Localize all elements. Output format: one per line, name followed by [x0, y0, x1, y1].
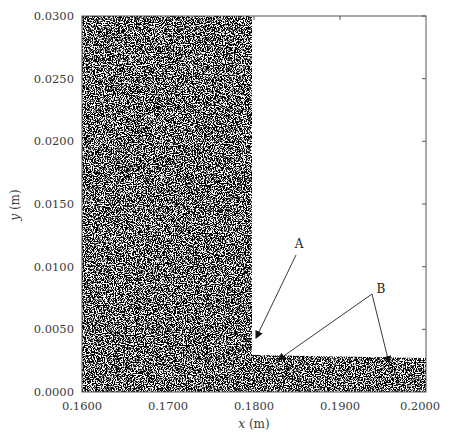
chart-figure: 0.0300 0.0250 0.0200 0.0150 0.0100 0.005… [0, 0, 453, 445]
arrow-icon [278, 294, 372, 360]
y-axis [422, 16, 426, 329]
arrow-icon [256, 255, 296, 338]
x-tick-label: 0.1900 [320, 399, 360, 413]
x-tick-label: 0.1800 [234, 399, 274, 413]
y-tick-label: 0.0000 [34, 385, 74, 399]
y-tick-label: 0.0300 [34, 9, 74, 23]
x-tick-label: 0.1700 [148, 399, 188, 413]
y-tick-label: 0.0150 [34, 197, 74, 211]
y-tick-labels: 0.0300 0.0250 0.0200 0.0150 0.0100 0.005… [34, 9, 74, 399]
x-tick-label: 0.1600 [62, 399, 102, 413]
x-tick-labels: 0.1600 0.1700 0.1800 0.1900 0.2000 [62, 399, 440, 413]
annotation-label-a: A [294, 237, 304, 251]
x-tick-label: 0.2000 [400, 399, 440, 413]
y-tick-label: 0.0200 [34, 134, 74, 148]
particle-region [82, 16, 426, 392]
x-axis-title: x (m) [238, 417, 269, 431]
y-tick-label: 0.0250 [34, 72, 74, 86]
arrow-icon [372, 294, 389, 363]
annotation-b: B [278, 282, 389, 363]
y-axis-title: y (m) [8, 189, 22, 221]
y-tick-label: 0.0050 [34, 322, 74, 336]
y-tick-label: 0.0100 [34, 260, 74, 274]
annotation-label-b: B [377, 282, 386, 296]
annotation-a: A [256, 237, 304, 338]
